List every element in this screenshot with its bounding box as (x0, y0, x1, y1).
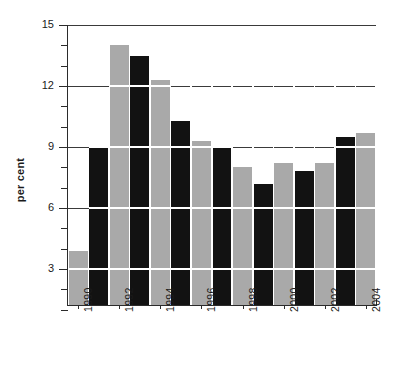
bar-separator-9 (110, 146, 129, 148)
bar-2001 (295, 171, 314, 305)
bar-separator-3 (295, 268, 314, 270)
bar-1997 (213, 147, 232, 305)
x-axis-tick-label-1996: 1996 (205, 287, 217, 312)
bar-separator-3 (171, 268, 190, 270)
bar-separator-9 (151, 146, 170, 148)
bar-separator-6 (130, 207, 149, 209)
y-axis-minor-tick (61, 127, 68, 128)
y-axis-tick-label: 9 (24, 140, 54, 152)
x-axis-tick-2002 (325, 305, 326, 309)
y-axis-minor-tick (61, 106, 68, 107)
bar-separator-3 (192, 268, 211, 270)
bar-separator-3 (336, 268, 355, 270)
bar-separator-6 (192, 207, 211, 209)
x-axis-tick-label-1998: 1998 (247, 287, 259, 312)
y-axis-minor-tick (61, 188, 68, 189)
bar-separator-6 (295, 207, 314, 209)
bar-separator-6 (213, 207, 232, 209)
bar-chart: per cent 3691215 19901992199419961998200… (0, 0, 403, 372)
x-axis-tick-1998 (243, 305, 244, 309)
y-axis-tick-label: 3 (24, 262, 54, 274)
bar-separator-6 (336, 207, 355, 209)
bar-separator-12 (151, 85, 170, 87)
bar-separator-6 (151, 207, 170, 209)
bar-1994 (151, 80, 170, 305)
y-axis-tick-label: 12 (24, 79, 54, 91)
x-axis-tick-label-1992: 1992 (123, 287, 135, 312)
bar-separator-9 (130, 146, 149, 148)
bar-separator-3 (151, 268, 170, 270)
bar-1995 (171, 121, 190, 305)
bar-separator-6 (171, 207, 190, 209)
x-axis-tick-1990 (78, 305, 79, 309)
bar-separator-6 (274, 207, 293, 209)
bar-separator-6 (89, 207, 108, 209)
y-axis-minor-tick (61, 310, 68, 311)
bar-2003 (336, 137, 355, 305)
bar-separator-9 (89, 146, 108, 148)
bar-separator-3 (315, 268, 334, 270)
x-axis-tick-1996 (201, 305, 202, 309)
bar-separator-9 (171, 146, 190, 148)
x-axis-tick-1994 (160, 305, 161, 309)
bar-separator-3 (254, 268, 273, 270)
bar-series (68, 0, 376, 305)
bar-separator-9 (336, 146, 355, 148)
bar-separator-3 (213, 268, 232, 270)
y-axis-minor-tick (61, 66, 68, 67)
bar-1991 (89, 147, 108, 305)
bar-separator-3 (110, 268, 129, 270)
bar-separator-3 (130, 268, 149, 270)
x-axis-tick-2004 (366, 305, 367, 309)
y-axis-major-tick (59, 147, 68, 148)
y-axis-major-tick (59, 25, 68, 26)
bar-separator-12 (130, 85, 149, 87)
bar-separator-3 (274, 268, 293, 270)
bar-1998 (233, 167, 252, 305)
bar-separator-6 (356, 207, 375, 209)
bar-separator-6 (315, 207, 334, 209)
bar-separator-3 (356, 268, 375, 270)
bar-separator-3 (69, 268, 88, 270)
bar-separator-6 (233, 207, 252, 209)
y-axis-minor-tick (61, 249, 68, 250)
y-axis-major-tick (59, 86, 68, 87)
x-axis-tick-label-2002: 2002 (329, 287, 341, 312)
bar-separator-12 (110, 85, 129, 87)
bar-separator-6 (110, 207, 129, 209)
bar-separator-6 (254, 207, 273, 209)
y-axis-tick-label: 15 (24, 18, 54, 30)
x-axis-tick-label-1990: 1990 (82, 287, 94, 312)
y-axis-minor-tick (61, 289, 68, 290)
x-axis-tick-1992 (119, 305, 120, 309)
bar-separator-9 (213, 146, 232, 148)
y-axis-tick-label: 6 (24, 201, 54, 213)
x-axis-tick-2000 (284, 305, 285, 309)
x-axis-tick-label-2000: 2000 (288, 287, 300, 312)
x-axis-tick-label-1994: 1994 (164, 287, 176, 312)
y-axis-major-tick (59, 208, 68, 209)
x-axis-tick-label-2004: 2004 (370, 287, 382, 312)
bar-separator-9 (356, 146, 375, 148)
y-axis-major-tick (59, 269, 68, 270)
bar-2000 (274, 163, 293, 305)
bar-2002 (315, 163, 334, 305)
bar-separator-3 (89, 268, 108, 270)
bar-1996 (192, 141, 211, 305)
bar-separator-3 (233, 268, 252, 270)
y-axis-minor-tick (61, 45, 68, 46)
y-axis-minor-tick (61, 228, 68, 229)
y-axis-minor-tick (61, 167, 68, 168)
bar-2004 (356, 133, 375, 305)
bar-separator-9 (192, 146, 211, 148)
